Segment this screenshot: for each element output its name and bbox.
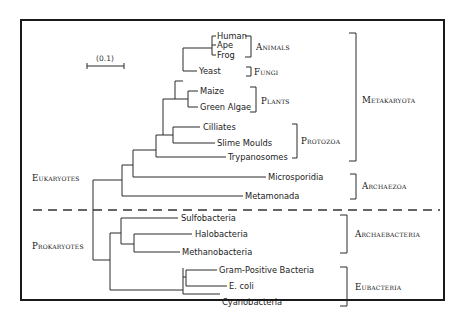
group-metakaryota: Metakaryota bbox=[362, 95, 416, 105]
leaf-e-coli: E. coli bbox=[229, 281, 254, 291]
group-protozoa: Protozoa bbox=[301, 136, 341, 146]
leaf-sulfobacteria: Sulfobacteria bbox=[181, 213, 236, 223]
leaf-slime-moulds: Slime Moulds bbox=[217, 138, 272, 148]
group-archaezoa: Archaezoa bbox=[361, 181, 407, 191]
domain-eukaryotes: Eukaryotes bbox=[32, 173, 80, 183]
group-plants: Plants bbox=[261, 96, 290, 106]
group-archaebacteria: Archaebacteria bbox=[354, 229, 420, 239]
leaf-cyanobacteria: Cyanobacteria bbox=[222, 297, 282, 307]
domain-prokaryotes: Prokaryotes bbox=[32, 241, 84, 251]
phylogenetic-tree: (0.1) bbox=[0, 0, 457, 334]
scale-bar: (0.1) bbox=[87, 54, 124, 69]
group-animals: Animals bbox=[255, 42, 290, 52]
leaf-methanobacteria: Methanobacteria bbox=[182, 247, 252, 257]
leaf-trypanosomes: Trypanosomes bbox=[227, 152, 288, 162]
leaf-microsporidia: Microsporidia bbox=[268, 172, 323, 182]
leaf-halobacteria: Halobacteria bbox=[195, 229, 248, 239]
leaf-labels: Human Ape Frog Yeast Maize Green Algae C… bbox=[181, 31, 323, 307]
leaf-maize: Maize bbox=[200, 86, 224, 96]
leaf-ape: Ape bbox=[217, 40, 233, 50]
scale-bar-label: (0.1) bbox=[96, 54, 114, 63]
leaf-metamonada: Metamonada bbox=[245, 191, 299, 201]
group-fungi: Fungi bbox=[254, 67, 279, 77]
group-eubacteria: Eubacteria bbox=[355, 282, 402, 292]
leaf-yeast: Yeast bbox=[198, 66, 221, 76]
leaf-cilliates: Cilliates bbox=[203, 122, 236, 132]
leaf-gram-positive-bacteria: Gram-Positive Bacteria bbox=[219, 265, 314, 275]
leaf-green-algae: Green Algae bbox=[200, 102, 251, 112]
leaf-frog: Frog bbox=[217, 50, 235, 60]
